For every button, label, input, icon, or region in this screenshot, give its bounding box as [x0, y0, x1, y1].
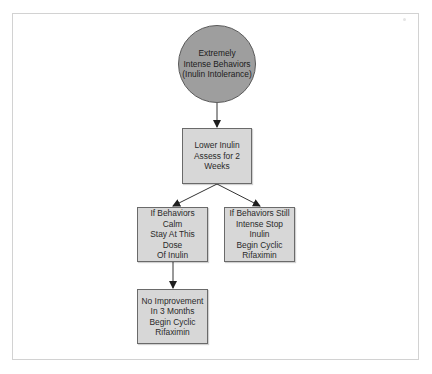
node-lower-inulin: Lower Inulin Assess for 2 Weeks: [182, 128, 252, 184]
node-no-improvement: No Improvement In 3 Months Begin Cyclic …: [137, 289, 208, 344]
node-start-label: Extremely Intense Behaviors (Inulin Into…: [180, 48, 253, 80]
corner-mark: [403, 18, 406, 21]
node-noimprove-label: No Improvement In 3 Months Begin Cyclic …: [140, 296, 206, 338]
node-calm-label: If Behaviors Calm Stay At This Dose Of I…: [138, 208, 207, 261]
node-still-label: If Behaviors Still Intense Stop Inulin B…: [225, 208, 294, 261]
node-behaviors-calm: If Behaviors Calm Stay At This Dose Of I…: [137, 207, 208, 262]
node-lower-label: Lower Inulin Assess for 2 Weeks: [192, 140, 242, 172]
node-behaviors-still-intense: If Behaviors Still Intense Stop Inulin B…: [224, 207, 295, 262]
node-start-circle: Extremely Intense Behaviors (Inulin Into…: [178, 25, 256, 103]
